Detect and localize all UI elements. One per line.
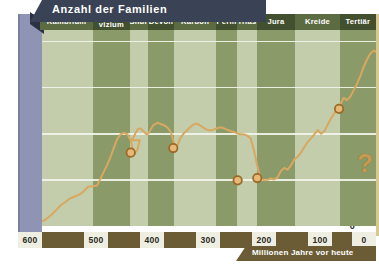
- page-title: Anzahl der Familien: [52, 3, 167, 15]
- x-tick-text: 400: [144, 235, 159, 245]
- x-tick-label: 600: [18, 232, 42, 248]
- x-tick-text: 600: [22, 235, 37, 245]
- y-axis-strip: [18, 14, 42, 236]
- question-mark-annotation: ?: [357, 148, 373, 179]
- x-tick-label: 300: [196, 232, 220, 248]
- extinction-marker: [253, 174, 261, 182]
- x-tick-label: 200: [252, 232, 276, 248]
- x-tick-text: 500: [88, 235, 103, 245]
- extinction-marker: [335, 105, 343, 113]
- period-label-text: Tertiär: [345, 18, 370, 26]
- x-tick-text: 100: [312, 235, 327, 245]
- extinction-marker: [233, 176, 241, 184]
- extinction-marker: [169, 144, 177, 152]
- title-banner: Anzahl der Familien: [30, 0, 266, 22]
- x-tick-label: 500: [84, 232, 108, 248]
- x-axis-label: Millionen Jahre vor heute: [252, 248, 353, 257]
- plot-area: [40, 30, 376, 226]
- x-tick-text: 300: [200, 235, 215, 245]
- period-label-text: Kreide: [305, 18, 330, 26]
- period-label-text: Jura: [268, 18, 285, 26]
- x-tick-label: 400: [140, 232, 164, 248]
- data-curve-svg: [40, 30, 376, 226]
- period-label-tertiär: Tertiär: [340, 14, 376, 30]
- data-line: [40, 51, 376, 222]
- x-tick-text: 0: [361, 235, 366, 245]
- extinction-marker: [127, 148, 135, 156]
- x-tick-text: 200: [256, 235, 271, 245]
- x-tick-label: 0: [352, 232, 376, 248]
- chart-figure: Anzahl der Familien 8006004002000 Kambri…: [0, 0, 379, 272]
- x-tick-label: 100: [308, 232, 332, 248]
- x-axis-label-bar: Millionen Jahre vor heute: [236, 246, 376, 261]
- period-label-kreide: Kreide: [295, 14, 339, 30]
